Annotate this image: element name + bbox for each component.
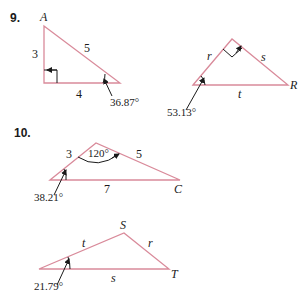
side-bottom-label: 4 <box>76 87 82 101</box>
side-left-label: r <box>207 49 212 63</box>
side-hyp-label: 5 <box>84 41 90 55</box>
top-angle-label: 120° <box>88 147 109 159</box>
side-right-label: 5 <box>136 147 142 161</box>
angle-label: 21.79° <box>34 280 63 292</box>
vertex-label-t: T <box>171 267 179 281</box>
triangle-c: C 3 5 7 120° 38.21° <box>34 143 183 203</box>
side-left-label: 3 <box>66 147 72 161</box>
vertex-label-s: S <box>120 218 126 232</box>
angle-label: 36.87° <box>110 96 139 108</box>
triangle-r: R r s t 53.13° <box>167 39 298 118</box>
angle-pointer-arrow-icon <box>104 79 112 96</box>
triangle-a: A 3 5 4 36.87° <box>32 10 139 108</box>
triangle-st: S T t r s 21.79° <box>34 218 179 292</box>
vertex-label-a: A <box>39 10 48 24</box>
figure-canvas: 9. A 3 5 4 36.87° R r s t 53.13° 10. C 3 <box>0 0 298 304</box>
side-right-label: r <box>148 236 153 250</box>
problem-number-9: 9. <box>10 11 20 25</box>
side-left-label: t <box>82 236 86 250</box>
side-bottom-label: t <box>238 87 242 101</box>
side-left-label: 3 <box>32 47 38 61</box>
right-angle-marker <box>44 70 57 83</box>
problem-number-10: 10. <box>14 126 31 140</box>
arrow-icon <box>112 154 119 158</box>
side-bottom-label: s <box>111 271 116 285</box>
vertex-label-r: R <box>289 78 298 92</box>
side-bottom-label: 7 <box>104 182 110 196</box>
angle-label: 53.13° <box>167 106 196 118</box>
angle-arc <box>68 257 70 269</box>
vertex-label-c: C <box>174 182 183 196</box>
side-right-label: s <box>261 50 266 64</box>
angle-label: 38.21° <box>34 191 63 203</box>
